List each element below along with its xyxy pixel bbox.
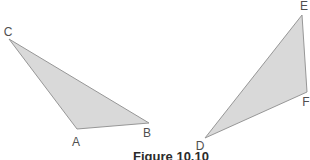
vertex-label-c: C xyxy=(4,25,13,39)
vertex-label-a: A xyxy=(72,135,80,149)
vertex-label-e: E xyxy=(300,0,308,13)
figure-caption: Figure 10.10 xyxy=(32,150,310,160)
triangle-def-shape xyxy=(205,15,307,138)
vertex-label-b: B xyxy=(143,126,151,140)
vertex-label-f: F xyxy=(302,95,309,109)
geometry-diagram-canvas: C A B E F D xyxy=(0,0,310,160)
triangle-abc-shape xyxy=(9,39,149,129)
